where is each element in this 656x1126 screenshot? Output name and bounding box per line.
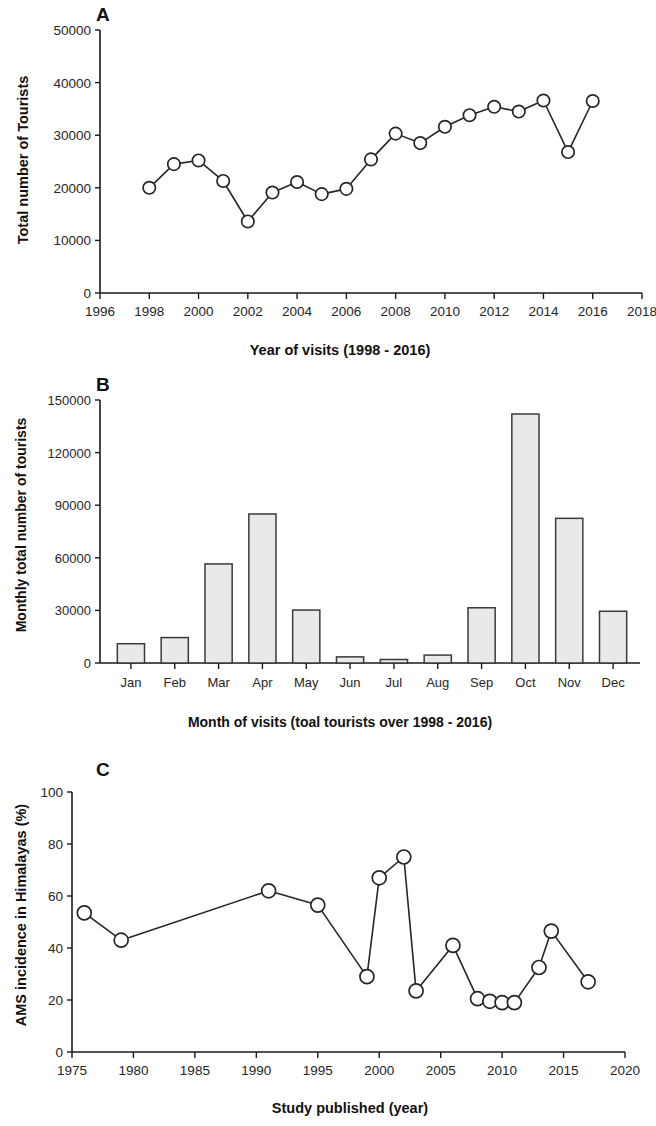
panel-b-bar [336,657,363,663]
panel-b-x-tick-label: Jun [340,675,361,690]
panel-c-y-tick-label: 60 [48,889,63,904]
panel-a-data-point [291,176,303,188]
panel-a-data-point [217,175,229,187]
panel-a-y-tick-label: 30000 [53,128,91,143]
panel-a-x-axis-title: Year of visits (1998 - 2016) [250,342,431,358]
panel-b-y-tick-label: 120000 [48,446,91,461]
panel-a-svg: 0100002000030000400005000019961998200020… [0,0,656,370]
panel-a-data-point [192,154,204,166]
panel-c-x-axis-title: Study published (year) [272,1100,428,1116]
panel-b-bar [599,611,626,663]
panel-b-x-tick-label: Jan [120,675,141,690]
panel-b-bar [380,659,407,663]
panel-c-data-point [507,996,521,1010]
panel-c-data-point [581,975,595,989]
panel-c-data-point [77,906,91,920]
panel-a-letter: A [96,4,110,26]
multi-panel-figure: A 01000020000300004000050000199619982000… [0,0,656,1126]
panel-c-y-tick-label: 100 [40,785,63,800]
panel-a-data-point [513,105,525,117]
panel-c-data-point [114,933,128,947]
panel-a-data-point [242,215,254,227]
panel-a-x-tick-label: 2000 [184,304,214,319]
panel-b-bar [117,644,144,663]
panel-a-data-point [143,182,155,194]
panel-c-data-point [372,871,386,885]
panel-c-data-point [262,884,276,898]
panel-b-x-tick-label: Jul [386,675,403,690]
panel-b-bar [424,655,451,663]
panel-a-data-point [389,127,401,139]
panel-a-x-tick-label: 2012 [479,304,509,319]
panel-b-x-tick-label: Dec [602,675,626,690]
panel-a-data-point [562,146,574,158]
panel-a-x-tick-label: 2004 [282,304,313,319]
panel-b-letter: B [96,374,110,396]
panel-c-x-tick-label: 1975 [57,1063,87,1078]
panel-b-y-tick-label: 150000 [48,393,91,408]
panel-a-x-tick-label: 1996 [85,304,115,319]
panel-a-x-tick-label: 1998 [134,304,164,319]
panel-c-y-axis-title: AMS incidence in Himalayas (%) [13,804,29,1027]
panel-b-bar-chart: B 0300006000090000120000150000JanFebMarA… [0,370,656,755]
panel-b-x-tick-label: Aug [426,675,449,690]
panel-c-y-tick-label: 40 [48,941,63,956]
panel-b-x-tick-label: Sep [470,675,493,690]
panel-a-x-tick-label: 2018 [627,304,656,319]
panel-b-y-tick-label: 30000 [55,603,91,618]
panel-c-data-point [360,970,374,984]
panel-a-x-tick-label: 2014 [528,304,559,319]
panel-b-x-tick-label: Feb [164,675,186,690]
panel-c-x-tick-label: 2005 [426,1063,456,1078]
panel-a-y-tick-label: 20000 [53,181,91,196]
panel-a-data-point [168,158,180,170]
panel-a-data-point [587,95,599,107]
panel-b-y-tick-label: 60000 [55,551,91,566]
panel-c-data-point [544,924,558,938]
panel-c-x-tick-label: 2020 [610,1063,640,1078]
panel-b-bar [205,564,232,663]
panel-b-x-tick-label: Mar [207,675,230,690]
panel-a-data-point [266,186,278,198]
panel-a-y-tick-label: 40000 [53,76,91,91]
panel-b-x-axis-title: Month of visits (toal tourists over 1998… [188,714,492,730]
panel-a-x-tick-label: 2008 [381,304,411,319]
panel-c-x-tick-label: 1980 [118,1063,148,1078]
panel-c-data-point [311,898,325,912]
panel-a-data-point [439,121,451,133]
panel-a-x-tick-label: 2010 [430,304,460,319]
panel-a-y-tick-label: 0 [83,286,91,301]
panel-c-y-tick-label: 0 [55,1045,63,1060]
panel-a-x-tick-label: 2006 [331,304,361,319]
panel-c-x-tick-label: 2010 [487,1063,517,1078]
panel-b-x-tick-label: May [294,675,319,690]
panel-b-bar [249,514,276,663]
panel-a-y-axis-title: Total number of Tourists [15,76,31,245]
panel-a-data-point [488,101,500,113]
panel-c-svg: 0204060801001975198019851990199520002005… [0,755,656,1126]
panel-a-data-point [340,183,352,195]
panel-a-y-tick-label: 10000 [53,233,91,248]
panel-a-data-point [414,137,426,149]
panel-a-x-tick-label: 2016 [578,304,608,319]
panel-c-line-chart: C 02040608010019751980198519901995200020… [0,755,656,1126]
panel-c-data-point [397,850,411,864]
panel-b-bar [161,638,188,663]
panel-c-x-tick-label: 2015 [549,1063,579,1078]
panel-b-y-tick-label: 90000 [55,498,91,513]
panel-b-y-tick-label: 0 [84,656,91,671]
panel-c-data-point [409,984,423,998]
panel-b-bar [468,608,495,663]
panel-c-data-point [446,938,460,952]
panel-b-bar [556,518,583,663]
panel-c-data-point [532,961,546,975]
panel-b-svg: 0300006000090000120000150000JanFebMarApr… [0,370,656,755]
panel-c-series-line [84,857,588,1003]
panel-a-data-point [365,153,377,165]
panel-b-x-tick-label: Nov [558,675,582,690]
panel-b-bar [512,414,539,663]
panel-b-x-tick-label: Apr [252,675,273,690]
panel-a-line-chart: A 01000020000300004000050000199619982000… [0,0,656,370]
panel-c-x-tick-label: 1995 [303,1063,333,1078]
panel-a-data-point [316,188,328,200]
